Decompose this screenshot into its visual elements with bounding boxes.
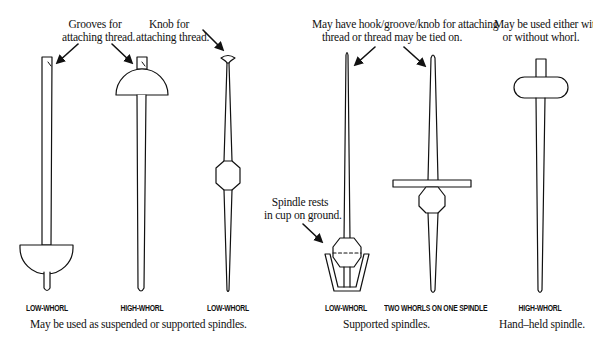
annotation-arrows <box>58 30 424 241</box>
note-cup-line2: in cup on ground. <box>264 209 336 222</box>
spindle-1-low-whorl <box>20 57 73 291</box>
spindle-3-low-whorl <box>216 56 240 292</box>
note-whorl: May be used either with or without whorl… <box>494 18 588 44</box>
note-cup: Spindle rests in cup on ground. <box>264 196 336 222</box>
spindle-5-two-whorls <box>393 55 471 293</box>
note-whorl-line1: May be used either with <box>494 18 588 31</box>
label-spindle-3: LOW-WHORL <box>206 302 249 313</box>
note-hook-line2: thread or thread may be tied on. <box>312 31 472 44</box>
label-spindle-5: TWO WHORLS ON ONE SPINDLE <box>384 302 482 313</box>
spindle-diagram: Grooves for attaching thread. Knob for a… <box>0 0 593 341</box>
spindle-6-hand-held <box>514 59 568 293</box>
label-spindle-1: LOW-WHORL <box>25 302 68 313</box>
caption-suspended-or-supported: May be used as suspended or supported sp… <box>30 318 230 330</box>
spindle-illustrations <box>0 0 593 341</box>
note-grooves-line2: attaching thread. <box>62 31 128 44</box>
label-spindle-4: LOW-WHORL <box>324 302 367 313</box>
note-knob-line2: attaching thread. <box>136 31 202 44</box>
arrow-hook-left <box>356 47 375 64</box>
note-whorl-line2: or without whorl. <box>494 31 588 44</box>
arrow-cup <box>303 224 321 241</box>
note-cup-line1: Spindle rests <box>264 196 336 209</box>
note-grooves-line1: Grooves for <box>62 18 128 31</box>
label-spindle-2: HIGH-WHORL <box>119 302 165 313</box>
spindle-2-high-whorl <box>116 57 168 291</box>
note-hook-line1: May have hook/groove/knob for attaching <box>312 18 472 31</box>
note-grooves: Grooves for attaching thread. <box>62 18 128 44</box>
arrow-grooves-right <box>112 44 131 62</box>
arrow-hook-right <box>404 47 424 65</box>
note-knob-line1: Knob for <box>136 18 202 31</box>
note-knob: Knob for attaching thread. <box>136 18 202 44</box>
note-hook: May have hook/groove/knob for attaching … <box>312 18 472 44</box>
label-spindle-6: HIGH-WHORL <box>517 302 563 313</box>
arrow-grooves-left <box>58 44 78 62</box>
caption-supported: Supported spindles. <box>343 318 429 330</box>
caption-hand-held: Hand–held spindle. <box>497 318 587 330</box>
spindle-4-supported-in-cup <box>325 53 369 292</box>
